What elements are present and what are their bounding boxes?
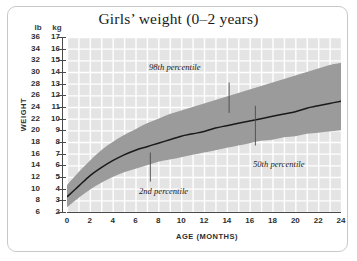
y-tick-label-lb: 32 <box>26 56 40 64</box>
y-tick-kg <box>62 119 66 120</box>
y-tick-kg <box>62 107 66 108</box>
x-tick-label: 6 <box>126 216 146 225</box>
y-tick-lb <box>58 177 62 178</box>
y-tick-lb <box>58 189 62 190</box>
y-tick-label-lb: 22 <box>26 115 40 123</box>
y-tick-lb <box>58 84 62 85</box>
y-tick-lb <box>58 49 62 50</box>
y-tick-kg <box>62 154 66 155</box>
y-tick-label-lb: 36 <box>26 33 40 41</box>
y-tick-lb <box>58 119 62 120</box>
x-tick-label: 12 <box>194 216 214 225</box>
y-tick-lb <box>58 72 62 73</box>
y-tick-kg <box>62 72 66 73</box>
y-tick-label-lb: 18 <box>26 138 40 146</box>
y-tick-label-lb: 26 <box>26 91 40 99</box>
y-tick-label-lb: 10 <box>26 185 40 193</box>
y-tick-kg <box>62 49 66 50</box>
x-tick-label: 16 <box>240 216 260 225</box>
y-tick-lb <box>58 154 62 155</box>
y-tick-label-lb: 24 <box>26 103 40 111</box>
y-tick-label-lb: 8 <box>26 196 40 204</box>
y-tick-lb <box>58 107 62 108</box>
x-axis-spine <box>67 212 341 213</box>
y-tick-lb <box>58 142 62 143</box>
x-tick-label: 2 <box>80 216 100 225</box>
y-tick-label-lb: 14 <box>26 161 40 169</box>
y-tick-kg <box>62 95 66 96</box>
y-tick-lb <box>58 95 62 96</box>
x-tick-label: 10 <box>171 216 191 225</box>
y-tick-lb <box>58 130 62 131</box>
x-tick-label: 14 <box>217 216 237 225</box>
annotation-98th-percentile: 98th percentile <box>149 62 200 72</box>
y-tick-lb <box>58 37 62 38</box>
x-tick-label: 22 <box>308 216 328 225</box>
y-tick-label-lb: 12 <box>26 173 40 181</box>
x-axis-title: AGE (MONTHS) <box>0 232 357 241</box>
y-tick-kg <box>62 200 66 201</box>
y-tick-label-lb: 20 <box>26 126 40 134</box>
y-tick-kg <box>62 177 66 178</box>
annotation-2nd-percentile: 2nd percentile <box>139 186 188 196</box>
y-tick-kg <box>62 60 66 61</box>
x-tick-label: 0 <box>57 216 77 225</box>
y-tick-lb <box>58 212 62 213</box>
y-tick-label-lb: 34 <box>26 45 40 53</box>
y-tick-kg <box>62 84 66 85</box>
y-tick-kg <box>62 165 66 166</box>
y-tick-kg <box>62 212 66 213</box>
y-tick-kg <box>62 37 66 38</box>
y-axis-spine <box>62 37 63 212</box>
growth-chart-svg <box>67 37 341 212</box>
annotation-50th-percentile: 50th percentile <box>253 159 304 169</box>
plot-area <box>67 37 341 212</box>
x-tick-label: 18 <box>263 216 283 225</box>
y-tick-lb <box>58 165 62 166</box>
x-tick-label: 8 <box>148 216 168 225</box>
y-tick-label-lb: 6 <box>26 208 40 216</box>
y-tick-label-lb: 28 <box>26 80 40 88</box>
y-tick-label-lb: 16 <box>26 150 40 158</box>
y-tick-kg <box>62 142 66 143</box>
y-axis-unit-kg: kg <box>49 23 65 32</box>
y-tick-kg <box>62 189 66 190</box>
x-tick-label: 24 <box>331 216 351 225</box>
x-tick-label: 20 <box>285 216 305 225</box>
y-tick-kg <box>62 130 66 131</box>
x-tick-label: 4 <box>103 216 123 225</box>
y-tick-lb <box>58 60 62 61</box>
y-axis-unit-lb: lb <box>30 23 46 32</box>
y-tick-label-lb: 30 <box>26 68 40 76</box>
y-tick-lb <box>58 200 62 201</box>
